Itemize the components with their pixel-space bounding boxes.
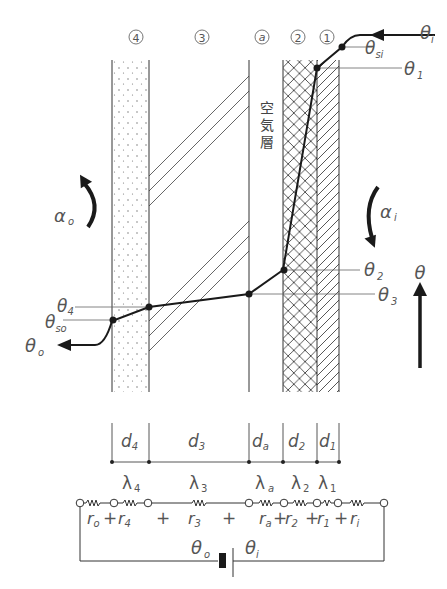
resistor-r4 — [123, 500, 137, 506]
point-theta-2 — [281, 267, 288, 274]
label-theta-3: θ3 — [378, 284, 397, 307]
alpha-i-arrowhead — [364, 235, 379, 250]
label-da: da — [252, 431, 269, 452]
label-alpha-i: αi — [380, 201, 397, 223]
label-theta-si: θsi — [365, 38, 384, 60]
label-r1: r1 — [317, 509, 330, 529]
svg-text:4: 4 — [133, 32, 140, 45]
layer-marker-air: a — [255, 30, 269, 44]
svg-text:3: 3 — [199, 32, 206, 45]
plus-sign: + — [222, 508, 236, 528]
plus-sign: + — [156, 508, 170, 528]
plus-sign: + — [103, 508, 117, 528]
alpha-o-arrowhead — [75, 171, 92, 188]
alpha-o-arrow: αo — [54, 171, 95, 227]
layer-marker-4: 4 — [129, 30, 143, 45]
layer-1-diagonal — [317, 60, 339, 392]
resistor-ri — [350, 500, 364, 506]
battery-symbol — [219, 548, 233, 577]
temperature-axis: θ — [413, 262, 427, 368]
label-theta-i: θi — [420, 22, 434, 45]
conductivity-labels: λ4 λ3 λa λ2 λ1 — [122, 473, 336, 494]
layer-markers: 4 3 a 2 1 — [129, 30, 334, 45]
layer-4-dotted — [112, 60, 149, 392]
label-ri: ri — [350, 509, 360, 529]
resistor-r3 — [192, 500, 206, 506]
svg-text:気: 気 — [260, 117, 274, 133]
layer-3-hatch — [149, 76, 249, 351]
layer-2-crosshatch — [283, 60, 317, 392]
resistance-labels: ro + r4 + r3 + ra + r2 + r1 + ri — [87, 508, 360, 529]
label-battery-theta-i: θi — [245, 537, 259, 560]
label-alpha-o: αo — [54, 205, 74, 227]
label-battery-theta-o: θo — [191, 537, 210, 560]
alpha-i-arrow: αi — [364, 187, 396, 250]
point-theta-3 — [246, 291, 253, 298]
label-lambda1: λ1 — [318, 473, 336, 494]
label-r2: r2 — [285, 509, 298, 529]
label-d2: d2 — [288, 431, 305, 452]
axis-arrowhead — [413, 282, 427, 296]
label-theta-o: θo — [25, 335, 44, 358]
resistor-ro — [86, 500, 100, 506]
resistor-r1 — [323, 500, 331, 506]
svg-text:空: 空 — [260, 100, 274, 116]
label-d3: d3 — [188, 431, 205, 452]
resistor-ra — [259, 500, 273, 506]
label-d4: d4 — [121, 431, 138, 452]
label-theta-2: θ2 — [364, 259, 383, 282]
svg-text:a: a — [259, 31, 266, 44]
label-r3: r3 — [188, 509, 201, 529]
svg-text:層: 層 — [260, 134, 274, 150]
resistor-r2 — [293, 500, 307, 506]
label-r4: r4 — [118, 509, 131, 529]
label-lambdaa: λa — [255, 473, 274, 494]
point-theta-si — [339, 44, 346, 51]
label-lambda3: λ3 — [189, 473, 207, 494]
thickness-labels: d4 d3 da d2 d1 — [121, 431, 336, 452]
plus-sign: + — [334, 508, 348, 528]
svg-text:1: 1 — [324, 32, 331, 45]
label-theta-1: θ1 — [404, 58, 423, 81]
layer-marker-2: 2 — [291, 30, 305, 45]
label-ro: ro — [87, 509, 100, 529]
svg-text:2: 2 — [295, 32, 302, 45]
layer-marker-1: 1 — [320, 30, 334, 45]
label-ra: ra — [259, 509, 272, 529]
layer-marker-3: 3 — [195, 30, 209, 45]
label-lambda4: λ4 — [122, 473, 140, 494]
label-d1: d1 — [319, 431, 336, 452]
point-theta-so — [110, 317, 117, 324]
label-lambda2: λ2 — [291, 473, 309, 494]
wall-heat-diagram: 4 3 a 2 1 — [0, 0, 447, 589]
point-theta-1 — [314, 65, 321, 72]
label-theta-4: θ4 — [57, 296, 74, 317]
temperature-labels: θi θsi θ1 θ2 θ3 θ4 θso θo — [25, 22, 434, 358]
label-axis-theta: θ — [414, 262, 425, 283]
point-theta-4 — [146, 304, 153, 311]
theta-o-arrowhead — [57, 339, 71, 351]
air-layer-label: 空 気 層 — [260, 100, 274, 150]
